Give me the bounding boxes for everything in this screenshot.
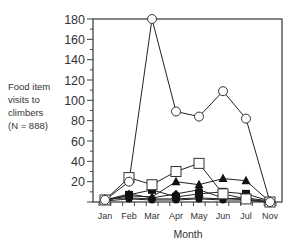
open-circle-marker — [172, 107, 181, 116]
y-tick-label: 140 — [64, 53, 85, 67]
y-tick-label: 180 — [64, 13, 85, 27]
x-tick-label: Feb — [121, 211, 137, 221]
y-tick-label: 20 — [71, 175, 85, 189]
x-tick-label: Mar — [144, 211, 160, 221]
open-square-marker — [194, 158, 204, 168]
plot-frame — [93, 19, 282, 202]
y-tick-label: 80 — [71, 114, 85, 128]
open-square-marker — [147, 180, 157, 190]
open-square-marker — [241, 194, 251, 204]
x-tick-label: Jan — [98, 211, 113, 221]
filled-square-marker — [195, 190, 203, 198]
x-tick-label: Nov — [262, 211, 279, 221]
filled-square-marker — [172, 193, 180, 201]
open-circle-marker — [125, 177, 134, 186]
x-tick-label: Apr — [169, 211, 183, 221]
x-tick-label: May — [190, 211, 208, 221]
filled-triangle-marker — [242, 176, 251, 185]
open-circle-marker — [195, 112, 204, 121]
open-circle-marker — [148, 15, 157, 24]
x-axis-title: Month — [173, 228, 202, 240]
open-circle-marker — [266, 198, 275, 207]
line-chart: 20406080100120140160180JanFebMarAprMayJu… — [0, 0, 297, 245]
open-square-marker — [218, 189, 228, 199]
open-circle-marker — [242, 114, 251, 123]
y-tick-label: 160 — [64, 33, 85, 47]
x-tick-label: Jun — [216, 211, 231, 221]
y-tick-label: 120 — [64, 74, 85, 88]
x-tick-label: Jul — [240, 211, 252, 221]
chart-series-markers — [100, 15, 275, 208]
filled-triangle-marker — [219, 174, 228, 183]
y-tick-label: 100 — [64, 94, 85, 108]
open-circle-marker — [101, 195, 110, 204]
filled-triangle-marker — [172, 177, 181, 186]
y-tick-label: 40 — [71, 155, 85, 169]
y-tick-label: 60 — [71, 135, 85, 149]
open-square-marker — [171, 167, 181, 177]
open-circle-marker — [219, 87, 228, 96]
